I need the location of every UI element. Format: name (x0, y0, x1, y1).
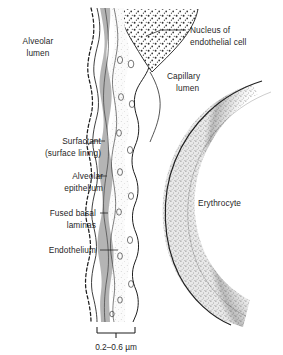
label-surfactant: Surfactant (surface lining) (45, 136, 102, 158)
surfactant-line2: (surface lining) (45, 148, 101, 158)
capillary-lumen-line1: Capillary (167, 71, 201, 81)
nucleus-line1: Nucleus of (190, 25, 231, 35)
label-alveolar-lumen: Alveolar lumen (23, 36, 54, 58)
label-alveolar-epithelium: Alveolar epithelium (64, 171, 103, 193)
alveolar-epithelium-line2: epithelium (64, 183, 103, 193)
surfactant-line1: Surfactant (62, 136, 101, 146)
alveolar-epithelium-line1: Alveolar (72, 171, 103, 181)
label-scale-bar: 0.2–0.6 µm (95, 342, 137, 352)
erythrocyte-label: Erythrocyte (198, 198, 241, 208)
diagram-labels: Alveolar lumen Nucleus of endothelial ce… (0, 0, 283, 355)
label-endothelium: Endothelium (49, 245, 96, 255)
fused-basal-line1: Fused basal (50, 208, 96, 218)
nucleus-line2: endothelial cell (190, 37, 247, 47)
alveolar-lumen-line1: Alveolar (23, 36, 54, 46)
fused-basal-line2: laminas (67, 220, 96, 230)
capillary-lumen-line2: lumen (176, 83, 199, 93)
endothelium-label: Endothelium (49, 245, 96, 255)
label-erythrocyte: Erythrocyte (198, 198, 241, 208)
figure-root: Alveolar lumen Nucleus of endothelial ce… (0, 0, 283, 355)
alveolar-lumen-line2: lumen (26, 48, 49, 58)
scale-bar-label: 0.2–0.6 µm (95, 342, 137, 352)
label-nucleus-of-endothelial-cell: Nucleus of endothelial cell (190, 25, 247, 47)
label-fused-basal-laminas: Fused basal laminas (50, 208, 96, 230)
label-capillary-lumen: Capillary lumen (167, 71, 201, 93)
